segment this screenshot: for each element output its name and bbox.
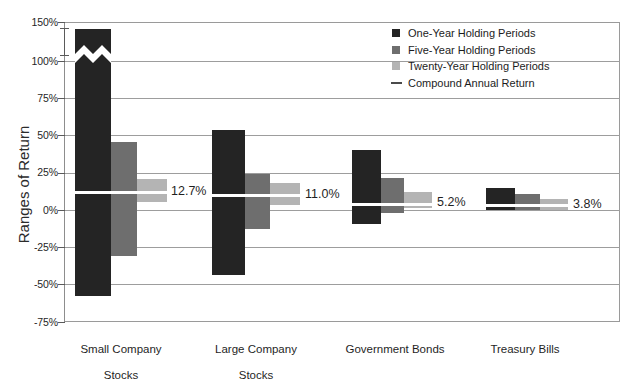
category-label-small-company-line1: Small Company [56, 343, 186, 356]
y-tick-mark-25 [58, 173, 65, 174]
y-tick-mark-neg25 [58, 247, 65, 248]
legend-label-one-year: One-Year Holding Periods [408, 27, 535, 39]
bar-five-year-large-company [245, 174, 270, 229]
gridline-75 [64, 98, 620, 99]
y-tick-mark-0 [58, 210, 65, 211]
y-tick-label-100: 100% [32, 55, 58, 67]
y-tick-mark-75 [58, 98, 65, 99]
bar-five-year-treasury-bills [515, 194, 540, 210]
bar-one-year-large-company [212, 130, 245, 275]
legend-item-twenty-year[interactable]: Twenty-Year Holding Periods [392, 58, 612, 75]
y-tick-label-neg50: -50% [34, 278, 58, 290]
category-label-treasury-bills: Treasury Bills [466, 330, 584, 369]
compound-return-line-large-company [212, 194, 300, 197]
category-label-small-company-line2: Stocks [56, 369, 186, 380]
value-label-large-company: 11.0% [305, 187, 340, 201]
legend-label-five-year: Five-Year Holding Periods [408, 44, 535, 56]
gridline-25 [64, 173, 620, 174]
legend-label-twenty-year: Twenty-Year Holding Periods [408, 60, 549, 72]
legend-swatch-one-year-icon [392, 29, 400, 37]
legend-swatch-twenty-year-icon [392, 62, 400, 70]
category-label-large-company: Large Company Stocks [191, 330, 321, 380]
y-axis-title: Ranges of Return [15, 115, 32, 255]
y-axis-break-marker [60, 28, 69, 56]
legend-item-compound-return[interactable]: Compound Annual Return [392, 75, 612, 92]
y-tick-mark-100 [58, 61, 65, 62]
y-tick-label-25: 25% [37, 166, 58, 178]
gridline-neg50 [64, 284, 620, 285]
category-label-treasury-bills-line1: Treasury Bills [466, 343, 584, 356]
legend: One-Year Holding Periods Five-Year Holdi… [392, 25, 612, 91]
y-tick-label-0: 0% [43, 204, 58, 216]
value-label-small-company: 12.7% [171, 184, 206, 198]
y-tick-mark-neg50 [58, 284, 65, 285]
y-tick-label-neg25: -25% [34, 241, 58, 253]
y-tick-mark-50 [58, 135, 65, 136]
legend-item-five-year[interactable]: Five-Year Holding Periods [392, 42, 612, 59]
legend-swatch-compound-return-line-icon [391, 82, 402, 84]
legend-label-compound-return: Compound Annual Return [408, 77, 535, 89]
compound-return-line-government-bonds [352, 203, 432, 206]
y-tick-mark-150 [58, 22, 65, 23]
category-label-large-company-line2: Stocks [191, 369, 321, 380]
bar-axis-break-small-company [75, 41, 111, 63]
chart-container: 150% 100% 75% 50% 25% 0% -25% -50% -75% … [0, 0, 633, 380]
category-label-government-bonds: Government Bonds [330, 330, 460, 369]
category-label-small-company: Small Company Stocks [56, 330, 186, 380]
y-tick-label-75: 75% [37, 92, 58, 104]
bar-one-year-government-bonds [352, 150, 381, 224]
compound-return-line-treasury-bills [486, 204, 568, 207]
category-label-government-bonds-line1: Government Bonds [330, 343, 460, 356]
bar-five-year-government-bonds [381, 178, 404, 213]
compound-return-line-small-company [75, 191, 167, 194]
value-label-treasury-bills: 3.8% [573, 197, 602, 211]
gridline-0 [64, 210, 620, 211]
y-tick-label-150: 150% [32, 16, 58, 28]
gridline-50 [64, 135, 620, 136]
category-label-large-company-line1: Large Company [191, 343, 321, 356]
legend-swatch-five-year-icon [392, 46, 400, 54]
y-tick-label-neg75: -75% [34, 316, 58, 328]
bar-five-year-small-company [111, 142, 137, 256]
gridline-neg25 [64, 247, 620, 248]
bar-one-year-small-company [75, 29, 111, 296]
y-tick-mark-neg75 [58, 322, 65, 323]
value-label-government-bonds: 5.2% [437, 195, 466, 209]
legend-item-one-year[interactable]: One-Year Holding Periods [392, 25, 612, 42]
y-tick-label-50: 50% [37, 129, 58, 141]
